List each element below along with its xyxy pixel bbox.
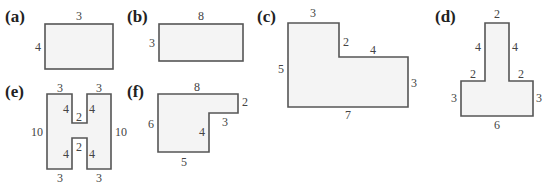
figure-c: (c) 3 2 4 3 7 5 — [257, 6, 417, 122]
dim-e-bottom-right: 3 — [96, 171, 102, 183]
dim-d-left: 3 — [451, 91, 457, 105]
figure-f: (f) 8 2 3 4 5 6 — [127, 80, 248, 169]
dim-e-top-notch-right: 4 — [89, 102, 95, 116]
figure-a: (a) 3 4 — [5, 7, 113, 69]
dim-d-shoulder-right: 2 — [518, 67, 524, 81]
dim-e-right: 10 — [115, 125, 127, 139]
dim-c-inner-horizontal: 4 — [370, 43, 376, 57]
figure-d: (d) 2 4 4 2 2 3 3 6 — [435, 7, 542, 132]
rectangle-b — [159, 24, 243, 61]
dim-e-bottom-notch-right: 4 — [89, 147, 95, 161]
figure-f-label: (f) — [127, 82, 144, 101]
dim-f-top: 8 — [194, 80, 200, 94]
dim-e-top-notch-bottom: 2 — [76, 110, 82, 124]
h-shape-e — [47, 94, 111, 169]
dim-c-right: 3 — [411, 76, 417, 90]
dim-f-step-vertical: 4 — [199, 125, 205, 139]
dim-e-bottom-left: 3 — [57, 171, 63, 183]
dim-d-stem-left: 4 — [475, 40, 481, 54]
dim-d-shoulder-left: 2 — [470, 67, 476, 81]
figure-e: (e) 3 3 10 10 4 4 2 2 4 4 3 3 — [5, 81, 127, 183]
dim-c-top: 3 — [310, 6, 316, 20]
figure-b: (b) 8 3 — [127, 7, 243, 61]
dim-e-bottom-notch-left: 4 — [63, 147, 69, 161]
dim-d-top: 2 — [494, 7, 500, 21]
dim-b-top: 8 — [198, 9, 204, 23]
dim-e-left: 10 — [31, 125, 43, 139]
dim-e-top-right: 3 — [96, 81, 102, 95]
figure-c-label: (c) — [257, 7, 276, 26]
dim-e-bottom-notch-top: 2 — [76, 140, 82, 154]
dim-d-stem-right: 4 — [512, 40, 518, 54]
dim-c-inner-vertical: 2 — [343, 35, 349, 49]
dim-c-bottom: 7 — [345, 108, 351, 122]
dim-f-bottom: 5 — [181, 155, 187, 169]
dim-d-bottom: 6 — [494, 118, 500, 132]
shapes-figure: (a) 3 4 (b) 8 3 (c) 3 2 4 3 7 5 (d) 2 4 … — [0, 0, 543, 183]
dim-a-left: 4 — [35, 40, 41, 54]
dim-f-right: 2 — [242, 95, 248, 109]
dim-f-step-horizontal: 3 — [222, 115, 228, 129]
dim-d-right: 3 — [536, 91, 542, 105]
rectangle-a — [45, 24, 113, 69]
dim-c-left: 5 — [278, 62, 284, 76]
dim-a-top: 3 — [76, 9, 82, 23]
figure-d-label: (d) — [435, 7, 456, 26]
dim-f-left: 6 — [148, 117, 154, 131]
dim-e-top-notch-left: 4 — [63, 102, 69, 116]
dim-e-top-left: 3 — [57, 81, 63, 95]
figure-b-label: (b) — [127, 7, 148, 26]
figure-a-label: (a) — [5, 7, 25, 26]
dim-b-left: 3 — [149, 36, 155, 50]
figure-e-label: (e) — [5, 82, 24, 101]
